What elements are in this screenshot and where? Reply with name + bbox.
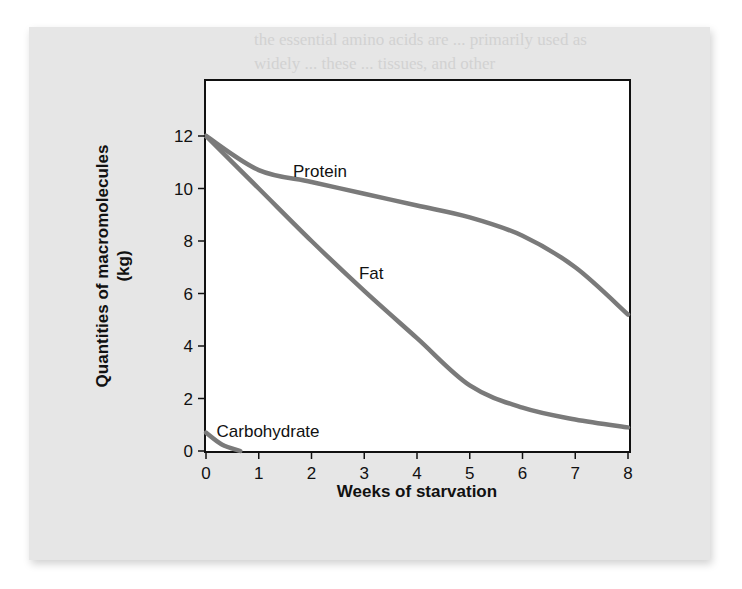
y-tick-label: 8 xyxy=(184,232,193,251)
x-tick-label: 1 xyxy=(254,464,263,483)
plot-area xyxy=(205,80,630,452)
x-tick-label: 7 xyxy=(571,464,580,483)
fat-label: Fat xyxy=(359,264,384,283)
x-tick-label: 4 xyxy=(412,464,421,483)
line-chart: ProteinFatCarbohydrate 012345678 0246810… xyxy=(0,0,742,589)
y-tick-label: 2 xyxy=(184,390,193,409)
y-axis: 024681012 xyxy=(174,127,205,461)
y-tick-label: 10 xyxy=(174,180,193,199)
x-tick-label: 2 xyxy=(307,464,316,483)
y-axis-title: Quantities of macromolecules xyxy=(93,145,112,388)
x-tick-label: 3 xyxy=(360,464,369,483)
x-tick-label: 6 xyxy=(518,464,527,483)
x-axis-title: Weeks of starvation xyxy=(337,482,497,501)
x-tick-label: 5 xyxy=(465,464,474,483)
x-tick-label: 8 xyxy=(623,464,632,483)
y-tick-label: 6 xyxy=(184,285,193,304)
y-axis-unit: (kg) xyxy=(114,250,133,281)
y-tick-label: 0 xyxy=(184,442,193,461)
x-axis: 012345678 xyxy=(201,452,632,483)
y-tick-label: 12 xyxy=(174,127,193,146)
y-tick-label: 4 xyxy=(184,337,193,356)
x-tick-label: 0 xyxy=(201,464,210,483)
carbohydrate-label: Carbohydrate xyxy=(217,422,320,441)
protein-label: Protein xyxy=(293,162,347,181)
